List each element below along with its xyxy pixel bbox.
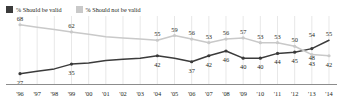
data-label: 42 [206,60,212,67]
x-axis-tick-labels: '96'97'98'99'00'01'02'03'04'05'06'07'08'… [6,87,337,101]
chart-container: % Should be valid % Should not be valid … [0,0,343,106]
x-axis-tick: '13 [308,89,316,98]
data-label: 40 [240,63,246,70]
data-label: 44 [274,58,280,65]
legend-swatch-light [76,6,83,13]
x-axis-tick: '99 [68,89,76,98]
data-label: 62 [68,21,74,28]
data-label: 55 [326,30,332,37]
data-label: 42 [326,60,332,67]
x-axis-tick: '12 [291,89,299,98]
data-label: 37 [188,66,194,73]
data-label: 54 [309,31,315,38]
chart-legend: % Should be valid % Should not be valid [6,3,141,15]
x-axis-tick: '98 [51,89,59,98]
x-axis-tick: '04 [154,89,162,98]
legend-label-should-not-be-valid: % Should not be valid [86,6,141,13]
data-label: 46 [223,56,229,63]
x-axis-tick: '09 [239,89,247,98]
data-label: 53 [274,32,280,39]
x-axis-tick: '08 [222,89,230,98]
x-axis-tick: '96 [16,89,24,98]
x-axis-tick: '05 [171,89,179,98]
x-axis-line [6,84,337,85]
data-label: 43 [309,59,315,66]
x-axis-tick: '10 [257,89,265,98]
legend-swatch-dark [6,6,13,13]
x-axis-tick: '11 [274,89,281,98]
x-axis-tick: '03 [136,89,144,98]
x-axis-tick: '00 [85,89,93,98]
x-axis-tick: '02 [119,89,127,98]
data-label: 50 [291,36,297,43]
data-label: 45 [291,57,297,64]
legend-label-should-be-valid: % Should be valid [16,6,62,13]
data-label: 53 [257,32,263,39]
data-label: 40 [257,63,263,70]
x-axis-tick: '97 [33,89,41,98]
x-axis-tick: '01 [102,89,110,98]
data-label: 59 [171,25,177,32]
data-label: 53 [206,32,212,39]
legend-item-should-not-be-valid: % Should not be valid [76,6,141,13]
data-label: 55 [154,30,160,37]
data-label: 56 [188,29,194,36]
data-label: 56 [223,29,229,36]
x-axis-tick: '06 [188,89,196,98]
x-axis-tick: '14 [325,89,333,98]
x-axis-tick: '07 [205,89,213,98]
data-label: 35 [68,69,74,76]
data-label: 42 [154,60,160,67]
data-label: 68 [17,14,23,21]
legend-item-should-be-valid: % Should be valid [6,6,62,13]
data-label: 57 [240,27,246,34]
